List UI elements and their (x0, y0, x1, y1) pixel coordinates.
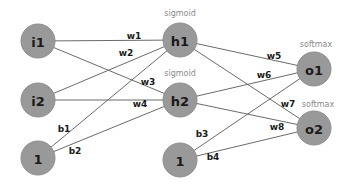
edge-label-w8: w8 (270, 122, 285, 132)
node-label: h1 (171, 34, 189, 49)
activation-label: sigmoid (164, 9, 195, 18)
edge-label-b3: b3 (196, 129, 209, 139)
node-label: i2 (31, 94, 45, 109)
node-i2: i2 (21, 83, 55, 117)
edge-label-w6: w6 (257, 70, 272, 80)
node-b_in: 1 (21, 141, 55, 175)
edge-label-w1: w1 (127, 31, 142, 41)
edge-b1 (38, 40, 180, 158)
node-label: 1 (33, 152, 42, 167)
edge-label-w5: w5 (267, 51, 282, 61)
activation-label: softmax (300, 40, 333, 49)
edge-label-w3: w3 (141, 77, 156, 87)
edge-label-w2: w2 (119, 48, 134, 58)
node-label: o1 (305, 63, 323, 78)
neural-network-diagram: w1w2w3w4b1b2w5w6w7w8b3b4 i1i21h1h21o1o2 … (0, 0, 349, 189)
edge-label-w4: w4 (133, 99, 148, 109)
activation-label: sigmoid (164, 69, 195, 78)
node-o2: o2 (297, 111, 331, 145)
node-label: h2 (171, 94, 189, 109)
edge-label-w7: w7 (281, 99, 296, 109)
node-h1: h1 (163, 23, 197, 57)
node-o1: o1 (297, 52, 331, 86)
edge-label-b1: b1 (58, 124, 71, 134)
node-b_hid: 1 (163, 143, 197, 177)
node-label: o2 (305, 122, 323, 137)
node-label: i1 (31, 35, 45, 50)
edge-w1 (38, 40, 180, 41)
edge-w5 (180, 40, 314, 69)
node-i1: i1 (21, 24, 55, 58)
edge-label-b2: b2 (69, 146, 82, 156)
edge-label-b4: b4 (207, 152, 220, 162)
node-h2: h2 (163, 83, 197, 117)
activation-label: softmax (302, 100, 335, 109)
node-label: 1 (175, 154, 184, 169)
